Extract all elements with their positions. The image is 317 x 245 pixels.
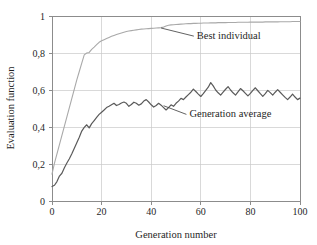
x-tick-label: 80 [245,206,255,217]
annotation-label: Best individual [197,30,261,41]
y-axis-title: Evaluation function [5,66,16,150]
y-tick-label: 0 [40,196,45,207]
y-tick-label: 1 [40,11,45,22]
y-tick-label: 0,4 [33,122,46,133]
x-tick-label: 0 [50,206,55,217]
x-tick-label: 100 [293,206,308,217]
x-tick-label: 20 [97,206,107,217]
x-axis-title: Generation number [135,229,217,240]
x-tick-label: 40 [146,206,156,217]
y-tick-label: 0,8 [33,48,46,59]
x-tick-label: 60 [196,206,206,217]
y-tick-label: 0,2 [33,159,46,170]
evaluation-function-line-chart: 020406080100 00,20,40,60,81 Best individ… [0,0,317,245]
annotation-label: Generation average [189,108,271,119]
chart-figure: 020406080100 00,20,40,60,81 Best individ… [0,0,317,245]
chart-background [0,0,317,245]
y-tick-label: 0,6 [33,85,46,96]
